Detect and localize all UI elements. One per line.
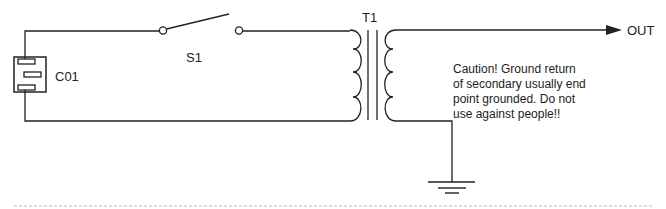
- output-arrow-icon: [606, 25, 622, 35]
- caution-note-line: use against people!!: [453, 107, 603, 122]
- wire-top-left: [25, 31, 159, 59]
- secondary-coil: [385, 30, 396, 121]
- caution-note: Caution! Ground return of secondary usua…: [453, 62, 603, 122]
- ground-icon: [428, 182, 475, 193]
- caution-note-line: point grounded. Do not: [453, 92, 603, 107]
- primary-coil: [350, 30, 361, 121]
- caution-note-line: Caution! Ground return: [453, 62, 603, 77]
- caution-note-line: of secondary usually end: [453, 77, 603, 92]
- transformer-label: T1: [362, 11, 377, 24]
- connector-label: C01: [55, 70, 79, 83]
- output-label: OUT: [627, 24, 654, 37]
- wire-ground: [396, 121, 452, 182]
- connector-c01-symbol: [14, 57, 46, 92]
- switch-s1-symbol: [159, 14, 242, 34]
- switch-label: S1: [186, 51, 202, 64]
- wire-bottom: [25, 90, 350, 121]
